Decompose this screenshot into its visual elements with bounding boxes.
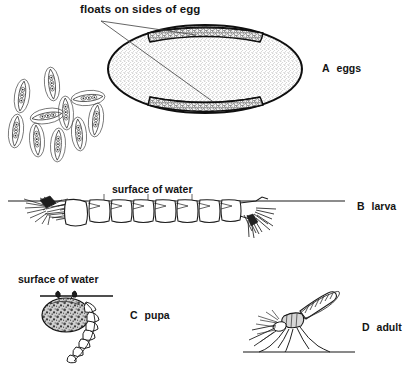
mosquito-life-cycle-figure — [0, 0, 416, 367]
egg-item — [12, 78, 32, 114]
egg-item — [28, 123, 45, 158]
adult-proboscis — [249, 325, 276, 346]
egg-item — [43, 66, 61, 101]
adult-head — [273, 322, 286, 331]
pupa-stage — [40, 291, 113, 363]
stage-label-pupa: Cpupa — [130, 309, 170, 321]
waterline-label-pupa: surface of water — [18, 273, 99, 285]
pupa-cephalothorax — [42, 298, 90, 332]
stage-name-adult: adult — [377, 321, 402, 333]
larva-thorax — [65, 199, 88, 226]
stage-letter-d: D — [362, 321, 370, 333]
stage-label-adult: Dadult — [362, 321, 402, 333]
annotation-floats-label: floats on sides of egg — [80, 3, 200, 15]
egg-item — [87, 102, 105, 137]
larva-siphon — [240, 197, 268, 203]
stage-letter-c: C — [130, 309, 138, 321]
adult-stage — [243, 291, 355, 352]
egg-item — [7, 113, 25, 148]
stage-label-larva: Blarva — [357, 200, 396, 212]
stage-name-larva: larva — [372, 200, 397, 212]
stage-label-eggs: Aeggs — [322, 62, 361, 74]
larva-stage — [8, 194, 345, 238]
egg-cluster — [7, 66, 106, 162]
stage-name-pupa: pupa — [145, 309, 170, 321]
stage-letter-b: B — [357, 200, 365, 212]
stage-letter-a: A — [322, 62, 330, 74]
magnified-egg — [108, 25, 302, 113]
waterline-label-larva: surface of water — [112, 183, 193, 195]
larva-tail-brushes — [244, 208, 276, 238]
stage-name-eggs: eggs — [337, 62, 362, 74]
adult-abdomen — [300, 292, 337, 319]
egg-item — [50, 128, 67, 163]
